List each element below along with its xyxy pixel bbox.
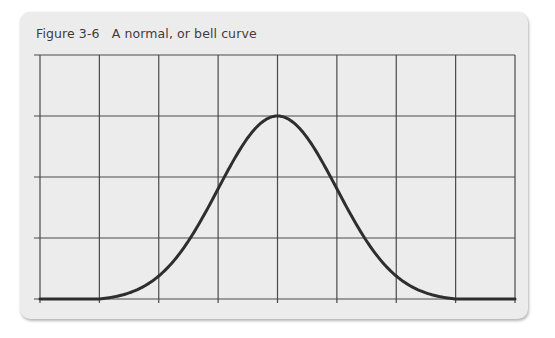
chart-grid: [34, 55, 515, 303]
bell-curve-chart: [0, 0, 555, 338]
